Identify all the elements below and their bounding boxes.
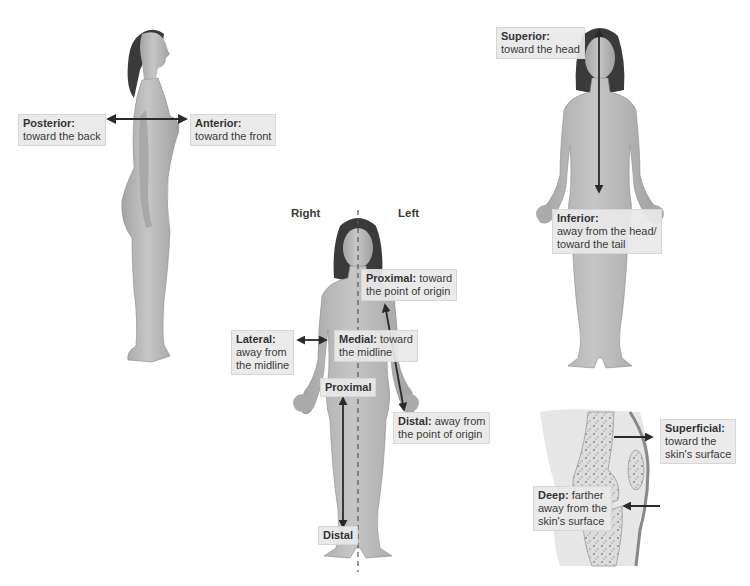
right-anterior-figure [536,28,664,368]
lateral-view-figure [122,30,179,362]
inferior-term: Inferior: [557,212,599,224]
deep-desc-2: away from the [538,502,607,514]
left-side-label: Left [398,207,419,219]
superior-term: Superior: [501,30,550,42]
inferior-desc-2: toward the tail [557,238,625,250]
proximal-leg-label: Proximal [320,378,376,397]
proximal-upper-term: Proximal: [366,272,416,284]
hand-right [293,394,311,412]
lateral-desc-1: away from [236,346,287,358]
deep-label: Deep: farther away from the skin's surfa… [533,486,612,531]
distal-arm-term: Distal: [398,415,432,427]
medial-desc-1: toward [380,333,413,345]
medial-term: Medial: [339,333,377,345]
anterior-term: Anterior: [195,117,241,129]
proximal-upper-desc-2: the point of origin [366,285,450,297]
superior-label: Superior: toward the head [496,27,585,59]
deep-desc-3: skin's surface [538,515,604,527]
directional-terms-diagram: Posterior: toward the back Anterior: tow… [0,0,750,586]
right-side-label: Right [291,207,320,219]
proximal-upper-desc-1: toward [419,272,452,284]
anterior-label: Anterior: toward the front [190,114,276,146]
deep-term: Deep: [538,489,569,501]
superior-desc: toward the head [501,43,580,55]
face [585,37,615,79]
anterior-desc: toward the front [195,130,271,142]
posterior-desc: toward the back [23,130,101,142]
distal-arm-label: Distal: away from the point of origin [393,412,490,444]
distal-leg-term: Distal [323,529,353,541]
superficial-desc-2: skin's surface [665,448,731,460]
lateral-label: Lateral: away from the midline [231,330,294,375]
proximal-upper-label: Proximal: toward the point of origin [361,269,457,301]
inferior-label: Inferior: away from the head/ toward the… [552,209,662,254]
distal-arm-desc-2: the point of origin [398,428,482,440]
deep-desc-1: farther [572,489,604,501]
distal-leg-label: Distal [318,526,358,545]
posterior-label: Posterior: toward the back [18,114,106,146]
superficial-label: Superficial: toward the skin's surface [660,419,736,464]
distal-arm-desc-1: away from [435,415,486,427]
lateral-term: Lateral: [236,333,276,345]
proximal-leg-term: Proximal [325,381,371,393]
lateral-desc-2: the midline [236,359,289,371]
inferior-desc-1: away from the head/ [557,225,657,237]
superficial-desc-1: toward the [665,435,716,447]
superficial-term: Superficial: [665,422,725,434]
medial-label: Medial: toward the midline [334,330,418,362]
medial-desc-2: the midline [339,346,392,358]
patella [628,450,644,490]
head [140,32,170,80]
posterior-term: Posterior: [23,117,75,129]
